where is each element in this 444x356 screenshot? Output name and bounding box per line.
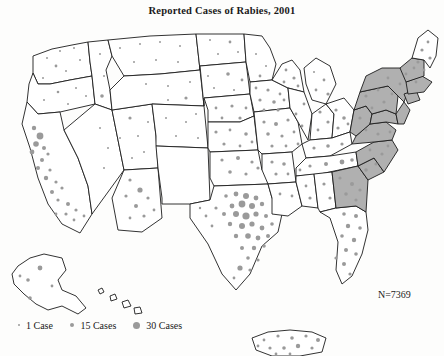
- rabies-map-figure: Reported Cases of Rabies, 2001: [0, 0, 444, 356]
- state-outlines: [12, 30, 438, 356]
- legend-item-30-cases: 30 Cases: [133, 320, 182, 331]
- legend-item-1-case: 1 Case: [18, 320, 53, 331]
- us-map-svg: [0, 18, 444, 356]
- legend-label-1-case: 1 Case: [26, 320, 53, 331]
- figure-title: Reported Cases of Rabies, 2001: [0, 5, 444, 16]
- total-count-label: N=7369: [378, 289, 411, 300]
- map-canvas: [0, 18, 444, 356]
- legend-label-30-cases: 30 Cases: [146, 320, 182, 331]
- legend-item-15-cases: 15 Cases: [70, 320, 116, 331]
- legend-dot-small: [18, 324, 20, 326]
- map-legend: 1 Case 15 Cases 30 Cases: [18, 316, 199, 334]
- legend-dot-large: [133, 322, 140, 329]
- legend-label-15-cases: 15 Cases: [80, 320, 116, 331]
- legend-dot-medium: [70, 323, 75, 328]
